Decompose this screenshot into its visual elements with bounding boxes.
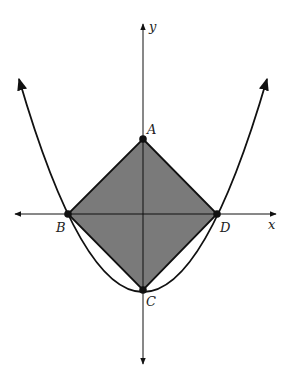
- label-c: C: [146, 294, 156, 309]
- y-axis-label: y: [148, 19, 157, 34]
- point-b: [64, 210, 72, 218]
- point-d: [213, 210, 221, 218]
- point-c: [139, 286, 147, 294]
- label-d: D: [219, 220, 231, 235]
- diagram-canvas: y x A B C D: [0, 0, 292, 377]
- x-axis-label: x: [268, 217, 276, 232]
- label-a: A: [146, 122, 156, 137]
- label-b: B: [55, 220, 66, 235]
- point-a: [139, 135, 147, 143]
